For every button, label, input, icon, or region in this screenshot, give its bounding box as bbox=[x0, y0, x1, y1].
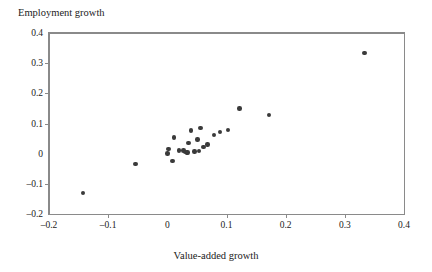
y-axis-title: Employment growth bbox=[18, 6, 105, 19]
y-tick-mark bbox=[45, 93, 49, 94]
data-point bbox=[197, 149, 201, 153]
data-point bbox=[205, 142, 209, 146]
x-tick-label: 0.2 bbox=[280, 220, 292, 230]
x-axis-title: Value-added growth bbox=[0, 249, 432, 262]
x-tick-mark bbox=[286, 214, 287, 218]
x-tick-mark bbox=[108, 214, 109, 218]
y-tick-label: 0 bbox=[38, 149, 43, 159]
data-point bbox=[267, 113, 271, 117]
data-point bbox=[81, 191, 85, 195]
data-point bbox=[186, 141, 190, 145]
y-tick-label: –0.2 bbox=[26, 209, 43, 219]
data-point bbox=[237, 106, 241, 110]
x-tick-mark bbox=[227, 214, 228, 218]
x-tick-mark bbox=[345, 214, 346, 218]
x-tick-label: 0 bbox=[165, 220, 170, 230]
data-point bbox=[212, 133, 216, 137]
y-tick-label: 0.3 bbox=[31, 58, 43, 68]
data-point bbox=[165, 151, 169, 155]
x-zero-axis-line bbox=[49, 33, 404, 34]
y-tick-label: –0.1 bbox=[26, 179, 43, 189]
x-tick-label: 0.1 bbox=[221, 220, 233, 230]
y-tick-label: 0.2 bbox=[31, 88, 43, 98]
data-point bbox=[198, 126, 202, 130]
data-point bbox=[226, 128, 230, 132]
data-point bbox=[172, 135, 176, 139]
plot-area: –0.2–0.100.10.20.30.4 –0.2–0.100.10.20.3… bbox=[48, 32, 405, 215]
x-tick-label: –0.2 bbox=[41, 220, 58, 230]
data-point bbox=[185, 150, 189, 154]
scatter-chart-figure: Employment growth –0.2–0.100.10.20.30.4 … bbox=[0, 0, 432, 272]
y-tick-mark bbox=[45, 63, 49, 64]
data-point bbox=[218, 130, 222, 134]
x-tick-label: 0.3 bbox=[339, 220, 351, 230]
y-tick-mark bbox=[45, 184, 49, 185]
data-point bbox=[362, 51, 366, 55]
y-tick-label: 0.4 bbox=[31, 28, 43, 38]
data-point bbox=[170, 159, 174, 163]
y-tick-label: 0.1 bbox=[31, 119, 43, 129]
y-tick-mark bbox=[45, 124, 49, 125]
data-point bbox=[189, 128, 193, 132]
data-point bbox=[133, 162, 137, 166]
data-point bbox=[195, 137, 199, 141]
x-tick-label: –0.1 bbox=[100, 220, 117, 230]
y-zero-axis-line bbox=[49, 33, 50, 214]
x-tick-label: 0.4 bbox=[398, 220, 410, 230]
data-point bbox=[166, 147, 170, 151]
